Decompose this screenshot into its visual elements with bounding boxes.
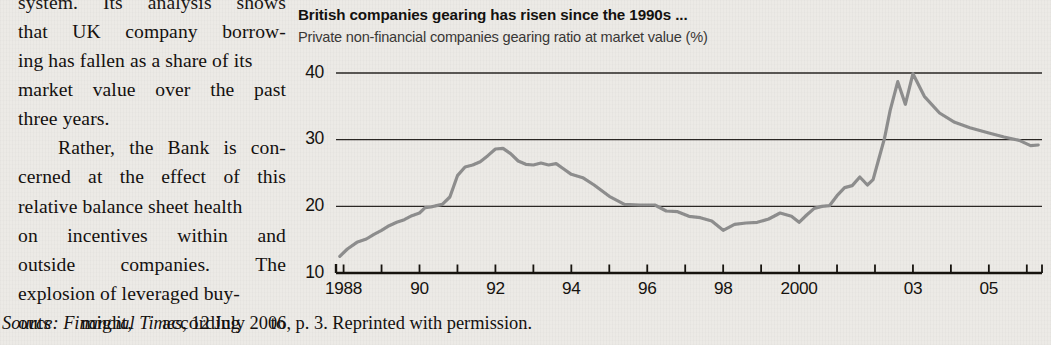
body-text-line: ing has fallen as a share of its — [18, 46, 286, 75]
body-text-word: con- — [251, 133, 286, 162]
y-tick-label-40: 40 — [290, 62, 324, 83]
body-text-word: companies. — [120, 250, 210, 279]
body-text-word: analysis — [148, 0, 212, 17]
body-text-word: within — [177, 221, 228, 250]
body-text-line: marketvalueoverthepast — [18, 75, 286, 104]
body-text-word: shows — [237, 0, 287, 17]
body-text-word: UK — [72, 17, 101, 46]
x-tick-label-98: 98 — [683, 278, 763, 299]
body-text-line: three years. — [18, 104, 286, 133]
body-text-word: incentives — [67, 221, 147, 250]
body-text-word: at — [88, 162, 102, 191]
body-text-word: outside — [18, 250, 75, 279]
y-tick-label-30: 30 — [290, 128, 324, 149]
x-tick-label-94: 94 — [531, 278, 611, 299]
x-tick-label-92: 92 — [455, 278, 535, 299]
chart-title: British companies gearing has risen sinc… — [298, 6, 688, 23]
body-text-word: Its — [103, 0, 123, 17]
x-tick-label-96: 96 — [607, 278, 687, 299]
body-text-word: on — [18, 221, 38, 250]
body-text-line: Rather,theBankiscon- — [18, 133, 286, 162]
x-tick-label-2000: 2000 — [759, 278, 839, 299]
body-text-word: of — [223, 162, 240, 191]
series-line-0 — [340, 74, 1038, 257]
body-text-word: relative balance sheet health — [18, 192, 242, 221]
body-text-word: this — [257, 162, 286, 191]
body-text-column: system.ItsanalysisshowsthatUKcompanyborr… — [18, 0, 286, 294]
x-tick-label-05: 05 — [949, 278, 1029, 299]
body-text-word: is — [223, 133, 236, 162]
body-text-word: Rather, — [58, 133, 115, 162]
body-text-line: outsidecompanies.The — [18, 250, 286, 279]
body-text-word: over — [155, 75, 190, 104]
body-text-word: borrow- — [222, 17, 286, 46]
body-text-word: three years. — [18, 104, 110, 133]
body-text-word: effect — [161, 162, 206, 191]
body-text-line: explosion of leveraged buy- — [18, 279, 286, 308]
x-tick-label-03: 03 — [873, 278, 953, 299]
body-text-line: cernedattheeffectofthis — [18, 162, 286, 191]
body-text-word: the — [129, 133, 153, 162]
body-text-word: and — [257, 221, 286, 250]
body-text-word: cerned — [18, 162, 71, 191]
body-text-word: market — [18, 75, 73, 104]
body-text-word: that — [18, 17, 48, 46]
body-text-line: system.Itsanalysisshows — [18, 0, 286, 17]
body-text-word: the — [120, 162, 144, 191]
source-caption: Source: Financial Times, 12 July 2006, p… — [2, 313, 532, 334]
chart-panel: British companies gearing has risen sinc… — [290, 0, 1051, 305]
body-text-word: explosion of leveraged buy- — [18, 279, 240, 308]
x-tick-label-90: 90 — [380, 278, 460, 299]
body-text-word: ing has fallen as a share of its — [18, 46, 252, 75]
source-label: Source: — [2, 313, 59, 333]
body-text-word: company — [125, 17, 198, 46]
body-text-word: The — [255, 250, 286, 279]
chart-svg — [290, 55, 1051, 305]
body-text-line: thatUKcompanyborrow- — [18, 17, 286, 46]
y-tick-label-20: 20 — [290, 195, 324, 216]
body-text-line: relative balance sheet health — [18, 192, 286, 221]
body-text-word: the — [210, 75, 234, 104]
body-text-word: Bank — [168, 133, 210, 162]
body-text-word: system. — [18, 0, 78, 17]
source-rest: , 12 July 2006, p. 3. Reprinted with per… — [182, 313, 532, 333]
body-text-word: value — [93, 75, 136, 104]
body-text-word: past — [254, 75, 286, 104]
chart-subtitle: Private non-financial companies gearing … — [298, 29, 708, 45]
x-tick-label-1988: 1988 — [304, 278, 384, 299]
body-text-line: onincentiveswithinand — [18, 221, 286, 250]
source-publication: Financial Times — [63, 313, 182, 333]
chart-plot-area: 102030401988909294969820000305 — [290, 55, 1051, 305]
